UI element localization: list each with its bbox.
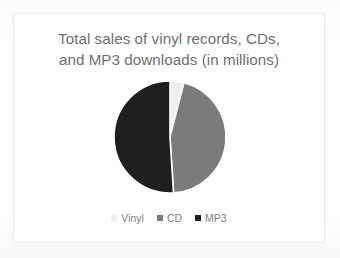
- pie-slice-mp3[interactable]: [114, 81, 174, 193]
- scanned-page-background: Total sales of vinyl records, CDs, and M…: [0, 0, 340, 258]
- legend-swatch-mp3: [195, 215, 201, 221]
- legend-label-mp3: MP3: [205, 212, 227, 224]
- chart-title: Total sales of vinyl records, CDs, and M…: [14, 28, 324, 70]
- legend-swatch-cd: [157, 215, 163, 221]
- legend-label-vinyl: Vinyl: [121, 212, 144, 224]
- chart-card: Total sales of vinyl records, CDs, and M…: [13, 13, 325, 243]
- legend-item-cd[interactable]: CD: [157, 212, 182, 224]
- chart-legend: Vinyl CD MP3: [14, 212, 324, 224]
- legend-swatch-vinyl: [111, 215, 117, 221]
- legend-item-vinyl[interactable]: Vinyl: [111, 212, 144, 224]
- legend-label-cd: CD: [167, 212, 182, 224]
- pie-plot-area: [14, 72, 324, 202]
- legend-item-mp3[interactable]: MP3: [195, 212, 227, 224]
- pie-slice-group: [114, 81, 226, 193]
- pie-chart: [14, 72, 326, 202]
